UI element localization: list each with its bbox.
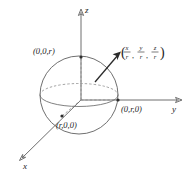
point-label-front: (r,0,0) <box>56 120 77 130</box>
annotation-term-z: z r <box>152 44 159 60</box>
point-label-right: (0,r,0) <box>121 104 142 114</box>
marked-points <box>60 55 119 117</box>
annotation-term-y-numerator: y <box>139 44 143 51</box>
point-dot-front <box>60 114 63 117</box>
annotation-close-paren: ) <box>160 45 165 61</box>
x-axis-label: x <box>22 161 27 171</box>
annotation-comma-2: , <box>146 51 148 60</box>
annotation-arrow <box>95 52 121 83</box>
sphere-outline <box>40 56 118 134</box>
figure-canvas: z y x (0,0,r) (0,r,0) (r,0,0) ( x r , y … <box>0 0 188 178</box>
annotation-term-y: y r <box>138 44 145 60</box>
sphere-coordinate-figure: z y x (0,0,r) (0,r,0) (r,0,0) ( x r , y … <box>0 0 188 178</box>
y-axis-label: y <box>171 104 176 114</box>
annotation-term-z-denominator: r <box>154 53 157 60</box>
unit-vector-annotation: ( x r , y r , z r ) <box>121 44 165 61</box>
z-axis-label: z <box>84 5 89 15</box>
annotation-term-y-denominator: r <box>140 53 143 60</box>
equator-front-half <box>40 95 118 106</box>
annotation-term-x-denominator: r <box>126 53 129 60</box>
x-axis <box>20 100 82 161</box>
point-dot-right <box>116 98 119 101</box>
annotation-comma-1: , <box>132 51 134 60</box>
point-label-top: (0,0,r) <box>33 46 55 56</box>
sphere <box>40 56 118 134</box>
annotation-term-z-numerator: z <box>153 44 157 51</box>
point-dot-top <box>79 55 82 58</box>
annotation-term-x-numerator: x <box>125 44 129 51</box>
equator-back-half <box>40 84 118 95</box>
